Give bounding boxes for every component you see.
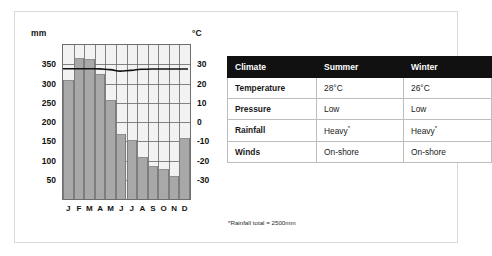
table-row: RainfallHeavy*Heavy* (228, 120, 492, 142)
left-axis-tick: 300 (26, 79, 56, 89)
cell-winter: Low (404, 99, 492, 120)
table-row: PressureLowLow (228, 99, 492, 120)
left-axis-tick: 100 (26, 156, 56, 166)
table-header-row: Climate Summer Winter (228, 57, 492, 78)
left-axis-tick: 350 (26, 59, 56, 69)
right-axis-tick: 20 (197, 79, 225, 89)
column-header-summer: Summer (317, 57, 404, 78)
left-axis-unit-label: mm (31, 28, 47, 38)
row-label: Pressure (228, 99, 317, 120)
right-axis-tick: -30 (197, 175, 225, 185)
column-header-climate: Climate (228, 57, 317, 78)
cell-summer: On-shore (317, 141, 404, 162)
cell-summer: Low (317, 99, 404, 120)
right-axis-tick: 10 (197, 98, 225, 108)
left-axis-tick: 250 (26, 98, 56, 108)
row-label: Rainfall (228, 120, 317, 142)
climate-summary-table: Climate Summer Winter Temperature28°C26°… (227, 56, 453, 216)
row-label: Winds (228, 141, 317, 162)
left-axis-tick: 200 (26, 117, 56, 127)
cell-winter: On-shore (404, 141, 492, 162)
right-axis-unit-label: °C (192, 28, 202, 38)
left-axis-tick: 150 (26, 136, 56, 146)
plot-area (62, 44, 191, 200)
right-axis-tick: 0 (197, 117, 225, 127)
cell-winter: Heavy* (404, 120, 492, 142)
table-row: Temperature28°C26°C (228, 78, 492, 99)
right-axis-tick: -20 (197, 156, 225, 166)
right-axis-tick: 30 (197, 59, 225, 69)
right-axis-tick: -10 (197, 136, 225, 146)
table-row: WindsOn-shoreOn-shore (228, 141, 492, 162)
climate-chart: mm °C 35030025020015010050 3020100-10-20… (15, 12, 221, 242)
table-footnote: *Rainfall total = 2500mm (228, 219, 296, 226)
footnote-marker: * (435, 125, 437, 131)
left-axis-tick: 50 (26, 175, 56, 185)
cell-winter: 26°C (404, 78, 492, 99)
row-label: Temperature (228, 78, 317, 99)
cell-summer: 28°C (317, 78, 404, 99)
figure-frame: mm °C 35030025020015010050 3020100-10-20… (14, 11, 458, 243)
column-header-winter: Winter (404, 57, 492, 78)
temperature-line (63, 45, 190, 199)
month-label: D (179, 204, 191, 213)
cell-summer: Heavy* (317, 120, 404, 142)
footnote-marker: * (348, 125, 350, 131)
